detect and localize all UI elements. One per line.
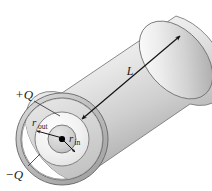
label-negative-charge: −Q (5, 167, 24, 182)
label-radius-outer-base: r (32, 116, 37, 128)
negative-charge-leader (28, 154, 40, 166)
label-radius-inner-subscript: in (75, 138, 81, 147)
label-radius-outer-subscript: out (38, 122, 49, 131)
label-length: L (126, 64, 134, 78)
figure-canvas: +Q −Q L r out r in (0, 0, 212, 191)
physics-figure-cylindrical-capacitor: +Q −Q L r out r in (0, 0, 212, 191)
label-positive-charge: +Q (15, 87, 34, 102)
label-radius-inner-base: r (69, 132, 74, 144)
